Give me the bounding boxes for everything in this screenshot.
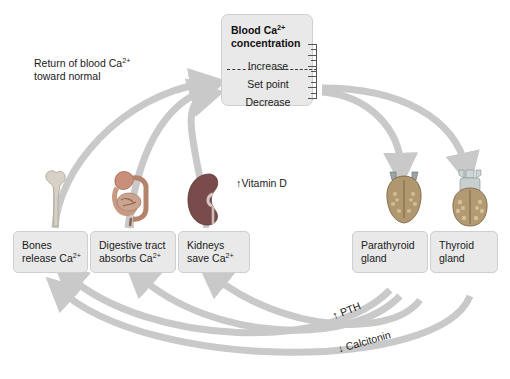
effector-box-bones: Bones release Ca2+: [13, 231, 88, 273]
bones-line2: release Ca2+: [22, 252, 80, 265]
kidneys-line1: Kidneys: [187, 239, 242, 252]
center-title-line2: concentration: [231, 37, 300, 49]
arrow-thyroid-to-bones: [60, 290, 470, 352]
return-label-line2: toward normal: [34, 70, 101, 82]
level-setpoint-label: Set point: [222, 78, 314, 90]
vitamin-d-text: Vitamin D: [242, 177, 287, 189]
calcium-scale-ruler: [308, 44, 317, 98]
ruler-tick: [308, 66, 317, 67]
arrow-parathyroid-to-kidneys: [213, 276, 420, 324]
kidney-icon: [182, 170, 228, 230]
return-to-normal-label: Return of blood Ca2+ toward normal: [34, 57, 130, 83]
parathyroid-gland-icon: [382, 166, 426, 230]
level-decrease-label: Decrease: [222, 96, 314, 108]
arrow-blood-to-thyroid: [322, 88, 466, 168]
ruler-tick: [308, 98, 317, 99]
ruler-tick: [308, 44, 317, 45]
ruler-tick: [308, 87, 317, 88]
ruler-tick: [311, 49, 317, 50]
ruler-tick: [311, 93, 317, 94]
thyroid-line1: Thyroid: [439, 239, 490, 252]
center-title-superscript: 2+: [277, 23, 285, 32]
arrow-blood-to-parathyroid: [322, 92, 401, 168]
gland-box-parathyroid: Parathyroid gland: [352, 231, 428, 273]
level-increase-label: Increase: [222, 60, 314, 72]
ruler-tick: [308, 55, 317, 56]
return-label-line1: Return of blood Ca: [34, 57, 122, 69]
center-title-line1: Blood Ca: [231, 24, 277, 36]
ruler-tick: [311, 82, 317, 83]
gland-box-thyroid: Thyroid gland: [430, 231, 498, 273]
ruler-tick: [311, 71, 317, 72]
digestive-tract-icon: [105, 168, 159, 230]
vitamin-d-label: ↑Vitamin D: [236, 177, 287, 190]
calcium-homeostasis-diagram: Blood Ca2+ concentration Increase Set po…: [0, 0, 510, 379]
ruler-tick: [311, 60, 317, 61]
parathyroid-line2: gland: [361, 252, 420, 265]
blood-calcium-concentration-box: Blood Ca2+ concentration Increase Set po…: [221, 14, 313, 106]
kidneys-line2: save Ca2+: [187, 252, 242, 265]
parathyroid-line1: Parathyroid: [361, 239, 420, 252]
bones-line1: Bones: [22, 239, 80, 252]
thyroid-line2: gland: [439, 252, 490, 265]
setpoint-dash-left: [227, 69, 251, 70]
effector-box-kidneys: Kidneys save Ca2+: [178, 231, 250, 273]
ruler-tick: [308, 76, 317, 77]
digestive-line2: absorbs Ca2+: [99, 252, 168, 265]
bone-icon: [42, 168, 72, 230]
effector-box-digestive-tract: Digestive tract absorbs Ca2+: [90, 231, 176, 273]
center-box-title: Blood Ca2+ concentration: [231, 24, 311, 49]
thyroid-gland-icon: [447, 166, 493, 230]
